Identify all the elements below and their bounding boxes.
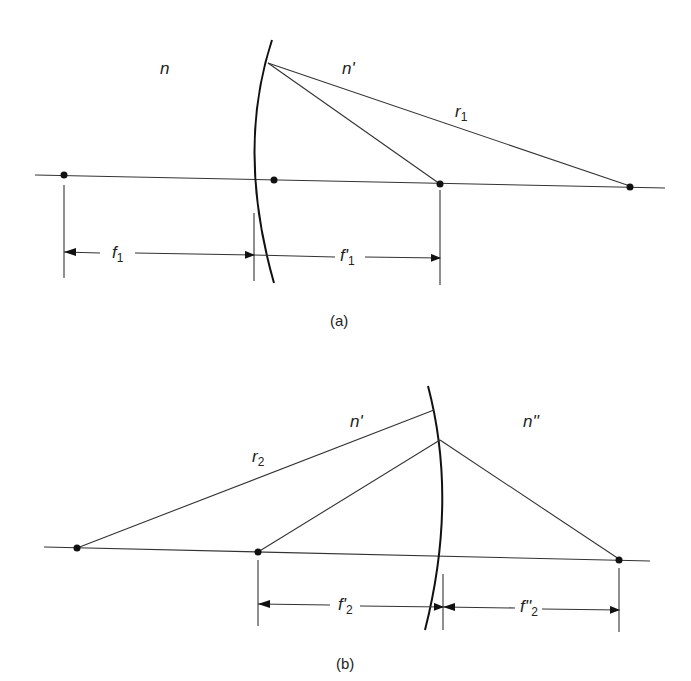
label-f1-prime: f'1: [340, 246, 355, 268]
refracting-surface: [425, 386, 442, 630]
caption-a: (a): [330, 312, 348, 329]
optical-axis: [44, 547, 650, 561]
center-of-curvature: [627, 184, 634, 191]
front-focal-point: [61, 172, 68, 179]
radius-line: [268, 63, 630, 186]
vertex-point: [271, 177, 278, 184]
diagram-a: n n' r1 f1 f'1 (a): [35, 40, 665, 329]
ray-from-focus: [258, 440, 440, 552]
back-focal-point: [437, 181, 444, 188]
label-n-prime: n': [342, 59, 355, 78]
back-focal-point: [616, 557, 623, 564]
label-n: n: [160, 59, 169, 78]
ray-to-focus: [440, 440, 619, 559]
label-f2-prime: f'2: [338, 595, 353, 617]
label-r1: r1: [455, 102, 468, 124]
label-n-prime: n': [350, 412, 363, 431]
refraction-diagram: n n' r1 f1 f'1 (a) n' n'' r2 f'2: [0, 0, 691, 681]
diagram-b: n' n'' r2 f'2 f''2 (b): [44, 386, 650, 672]
caption-b: (b): [336, 655, 354, 672]
label-f2-double-prime: f''2: [520, 597, 538, 619]
label-r2: r2: [252, 447, 265, 469]
label-n-double-prime: n'': [523, 412, 540, 431]
center-of-curvature: [74, 545, 81, 552]
f2pp-dim-line: [542, 609, 619, 610]
optical-axis: [35, 175, 665, 188]
label-f1: f1: [112, 243, 124, 265]
radius-line: [77, 410, 434, 548]
refracting-surface: [254, 40, 274, 283]
f1p-dim-line: [365, 257, 440, 258]
f1-dim-line: [135, 253, 254, 255]
front-focal-point: [255, 549, 262, 556]
ray-to-focus: [268, 63, 440, 184]
